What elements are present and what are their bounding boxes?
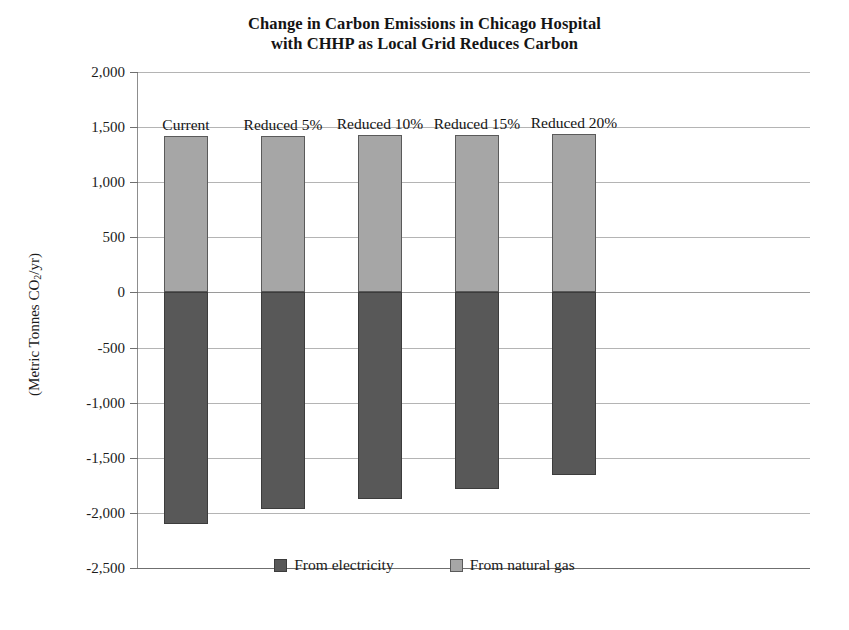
chart-title-line-2: with CHHP as Local Grid Reduces Carbon	[0, 34, 849, 54]
bar-segment-electricity[interactable]	[164, 292, 208, 523]
y-axis-tick-label: 0	[33, 284, 125, 301]
y-axis-tick-label: -1,500	[33, 449, 125, 466]
bar-segment-electricity[interactable]	[358, 292, 402, 499]
legend-item-natural-gas: From natural gas	[450, 556, 575, 574]
bar-segment-electricity[interactable]	[552, 292, 596, 475]
y-axis-tick-label: -2,000	[33, 504, 125, 521]
y-axis-tick-label: 1,000	[33, 174, 125, 191]
bar-segment-natural-gas[interactable]	[455, 135, 499, 293]
bar-segment-natural-gas[interactable]	[164, 136, 208, 292]
y-axis-title-subscript: 2	[32, 275, 43, 280]
chart-legend: From electricity From natural gas	[0, 556, 849, 574]
chart-page: Change in Carbon Emissions in Chicago Ho…	[0, 0, 849, 630]
legend-item-electricity: From electricity	[274, 556, 393, 574]
chart-title-line-1: Change in Carbon Emissions in Chicago Ho…	[248, 14, 601, 33]
bar-segment-natural-gas[interactable]	[552, 134, 596, 293]
legend-label-natural-gas: From natural gas	[470, 556, 575, 574]
legend-swatch-icon-electricity	[274, 559, 287, 572]
category-label: Current	[162, 116, 209, 134]
bar-layer: CurrentReduced 5%Reduced 10%Reduced 15%R…	[137, 72, 810, 568]
y-axis-tick-label: 1,500	[33, 119, 125, 136]
legend-swatch-icon-natural-gas	[450, 559, 463, 572]
y-axis-title-suffix: /yr)	[26, 253, 42, 275]
plot-area: 2,0001,5001,0005000-500-1,000-1,500-2,00…	[137, 72, 810, 568]
y-axis-tick-label: 500	[33, 229, 125, 246]
bar-group[interactable]: Current	[164, 72, 208, 568]
bar-group[interactable]: Reduced 5%	[261, 72, 305, 568]
y-axis-tick-label: 2,000	[33, 64, 125, 81]
category-label: Reduced 20%	[531, 114, 618, 132]
bar-segment-electricity[interactable]	[455, 292, 499, 488]
legend-label-electricity: From electricity	[294, 556, 393, 574]
y-axis-tick-label: -1,000	[33, 394, 125, 411]
bar-segment-natural-gas[interactable]	[358, 135, 402, 292]
category-label: Reduced 15%	[434, 115, 521, 133]
bar-group[interactable]: Reduced 20%	[552, 72, 596, 568]
chart-title: Change in Carbon Emissions in Chicago Ho…	[0, 14, 849, 54]
category-label: Reduced 5%	[244, 116, 323, 134]
bar-segment-electricity[interactable]	[261, 292, 305, 509]
y-axis-tick-label: -500	[33, 339, 125, 356]
bar-segment-natural-gas[interactable]	[261, 136, 305, 293]
bar-group[interactable]: Reduced 15%	[455, 72, 499, 568]
bar-group[interactable]: Reduced 10%	[358, 72, 402, 568]
category-label: Reduced 10%	[337, 115, 424, 133]
